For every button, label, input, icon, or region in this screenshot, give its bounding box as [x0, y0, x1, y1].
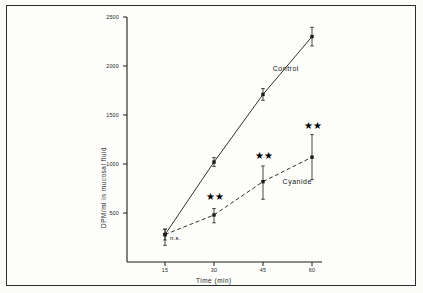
data-point-marker	[163, 233, 166, 236]
x-tick-label: 30	[202, 267, 226, 273]
axes-layer	[123, 17, 322, 266]
data-point-marker	[261, 180, 264, 183]
series-layer	[163, 27, 314, 245]
data-point-marker	[261, 93, 264, 96]
x-axis-title: Time (min)	[196, 277, 232, 284]
significance-stars: ★★	[255, 151, 272, 161]
series-label-control: Control	[273, 65, 299, 72]
data-point-marker	[212, 213, 215, 216]
series-label-cyanide: Cyanide	[283, 178, 312, 185]
y-tick-label: 1000	[95, 161, 119, 167]
data-point-marker	[310, 35, 313, 38]
series-line-cyanide	[165, 157, 312, 234]
x-tick-label: 15	[153, 267, 177, 273]
significance-ns-label: n.s.	[170, 235, 181, 241]
chart-canvas	[0, 0, 423, 293]
significance-stars: ★★	[304, 121, 321, 131]
data-point-marker	[310, 155, 313, 158]
y-tick-label: 500	[95, 210, 119, 216]
significance-stars: ★★	[206, 192, 223, 202]
x-tick-label: 60	[300, 267, 324, 273]
figure-page: DPM/ml in mucosal fluid Time (min) 50010…	[0, 0, 423, 293]
x-tick-label: 45	[251, 267, 275, 273]
data-point-marker	[212, 160, 215, 163]
y-tick-label: 2000	[95, 63, 119, 69]
y-tick-label: 2500	[95, 14, 119, 20]
y-tick-label: 1500	[95, 112, 119, 118]
